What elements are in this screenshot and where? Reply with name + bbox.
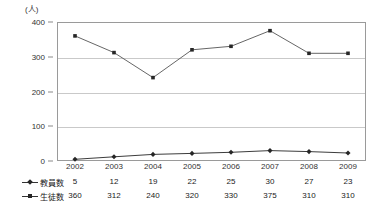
- table-cell: 312: [107, 189, 120, 203]
- legend-label: 生徒数: [40, 191, 63, 202]
- y-tick-label: 0: [41, 157, 45, 166]
- table-cell: 19: [149, 175, 158, 189]
- square-marker-icon: [28, 194, 32, 198]
- x-tick-label: 2008: [300, 162, 318, 171]
- data-point-marker: [189, 151, 194, 156]
- x-tick-label: 2006: [222, 162, 240, 171]
- table-cell: 310: [302, 189, 315, 203]
- table-cell: 240: [146, 189, 159, 203]
- table-cell: 23: [344, 175, 353, 189]
- series-teachers: [72, 148, 350, 162]
- x-tick-label: 2004: [144, 162, 162, 171]
- table-row: 生徒数360312240320330375310310: [0, 189, 375, 203]
- y-tick-label: 200: [32, 87, 45, 96]
- x-tick-label: 2009: [339, 162, 357, 171]
- data-point-marker: [73, 34, 77, 38]
- data-point-marker: [112, 51, 116, 55]
- chart-container: (人) 0100200300400 2002200320042005200620…: [0, 0, 375, 205]
- data-point-marker: [228, 150, 233, 155]
- table-cell: 330: [224, 189, 237, 203]
- series-layer: [57, 22, 366, 161]
- data-table: 教員数512192225302723生徒数3603122403203303753…: [0, 175, 375, 203]
- table-cell: 310: [341, 189, 354, 203]
- legend-label: 教員数: [40, 177, 63, 188]
- y-tick-mark: [48, 91, 53, 92]
- legend-line: [22, 182, 38, 183]
- x-axis: 20022003200420052006200720082009: [57, 162, 366, 175]
- data-point-marker: [346, 52, 350, 56]
- data-point-marker: [151, 76, 155, 80]
- table-cell: 12: [110, 175, 119, 189]
- x-tick-label: 2007: [261, 162, 279, 171]
- data-point-marker: [190, 48, 194, 52]
- y-tick-label: 400: [32, 18, 45, 27]
- y-tick-label: 300: [32, 52, 45, 61]
- y-tick-label: 100: [32, 122, 45, 131]
- table-cell: 360: [68, 189, 81, 203]
- table-cell: 30: [266, 175, 275, 189]
- data-point-marker: [306, 149, 311, 154]
- table-cell: 22: [188, 175, 197, 189]
- legend-line: [22, 196, 38, 197]
- data-point-marker: [345, 150, 350, 155]
- y-tick-mark: [48, 22, 53, 23]
- y-tick-mark: [48, 161, 53, 162]
- legend-item-students[interactable]: 生徒数: [22, 189, 67, 203]
- x-tick-label: 2005: [183, 162, 201, 171]
- table-cell: 320: [185, 189, 198, 203]
- table-row: 教員数512192225302723: [0, 175, 375, 189]
- data-point-marker: [268, 29, 272, 33]
- series-line: [75, 31, 348, 78]
- y-tick-mark: [48, 126, 53, 127]
- x-tick-label: 2003: [105, 162, 123, 171]
- data-point-marker: [267, 148, 272, 153]
- legend-item-teachers[interactable]: 教員数: [22, 175, 67, 189]
- data-point-marker: [150, 152, 155, 157]
- table-cell: 375: [263, 189, 276, 203]
- data-point-marker: [307, 52, 311, 56]
- diamond-marker-icon: [27, 179, 33, 185]
- data-point-marker: [111, 154, 116, 159]
- series-students: [73, 29, 350, 79]
- table-cell: 27: [305, 175, 314, 189]
- y-tick-mark: [48, 56, 53, 57]
- data-point-marker: [229, 45, 233, 49]
- x-tick-label: 2002: [66, 162, 84, 171]
- table-cell: 25: [227, 175, 236, 189]
- table-cell: 5: [73, 175, 77, 189]
